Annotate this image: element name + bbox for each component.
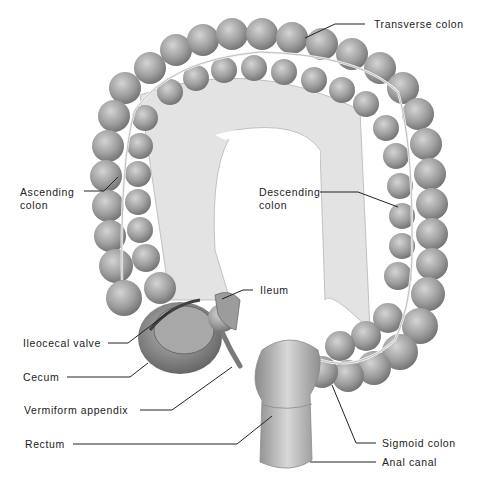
- label-ascending-colon-line1: Ascending: [20, 186, 74, 199]
- label-sigmoid-colon: Sigmoid colon: [382, 437, 456, 450]
- label-descending-colon-line2: colon: [259, 199, 320, 212]
- leader-cecum: [67, 363, 148, 377]
- label-descending-colon-line1: Descending: [259, 186, 320, 199]
- label-rectum: Rectum: [25, 438, 65, 451]
- rectum-shape: [255, 340, 320, 468]
- label-ascending-colon: Ascending colon: [20, 186, 74, 212]
- label-transverse-colon: Transverse colon: [374, 18, 464, 31]
- leader-rectum: [73, 416, 272, 444]
- label-descending-colon: Descending colon: [259, 186, 320, 212]
- label-ileum: Ileum: [260, 284, 289, 297]
- sigmoid-colon-shape: [306, 303, 438, 392]
- label-vermiform-appendix: Vermiform appendix: [24, 404, 128, 417]
- label-cecum: Cecum: [23, 371, 59, 384]
- label-ascending-colon-line2: colon: [20, 199, 74, 212]
- label-anal-canal: Anal canal: [382, 456, 437, 469]
- label-ileocecal-valve: Ileocecal valve: [23, 337, 101, 350]
- leader-sigmoid-colon: [332, 385, 376, 443]
- appendix-shape: [222, 332, 240, 366]
